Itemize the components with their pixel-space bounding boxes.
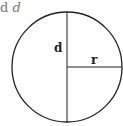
diameter-label: d bbox=[54, 41, 63, 55]
circle-diagram: d r bbox=[0, 0, 123, 126]
radius-label: r bbox=[91, 53, 98, 67]
